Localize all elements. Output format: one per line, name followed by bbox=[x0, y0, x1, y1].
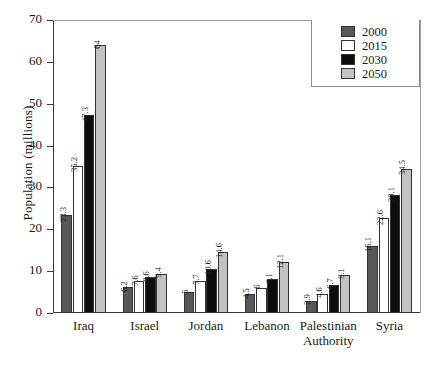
y-axis-tick-label: 60 bbox=[29, 53, 42, 69]
bar: 2.9 bbox=[306, 301, 317, 313]
y-axis-tick-label: 30 bbox=[29, 178, 42, 194]
bar-value-label: 4.6 bbox=[314, 287, 323, 298]
legend-item: 2050 bbox=[341, 67, 419, 80]
bar: 6.2 bbox=[123, 287, 134, 313]
bar-value-label: 6.7 bbox=[325, 279, 334, 290]
bar: 12.1 bbox=[279, 262, 290, 313]
legend-color-swatch bbox=[341, 26, 355, 37]
bar: 9.1 bbox=[340, 275, 351, 313]
legend-item-label: 2015 bbox=[362, 40, 387, 52]
y-axis-title: Population (millions) bbox=[20, 53, 36, 273]
legend-color-swatch bbox=[341, 54, 355, 65]
legend-color-swatch bbox=[341, 68, 355, 79]
bar: 4.6 bbox=[317, 294, 328, 313]
plot-right-border bbox=[420, 20, 421, 313]
bar-value-label: 12.1 bbox=[276, 254, 285, 269]
bar: 14.6 bbox=[218, 252, 229, 313]
bar-value-label: 14.6 bbox=[214, 243, 223, 258]
y-axis-tick-label: 50 bbox=[29, 95, 42, 111]
bar-value-label: 4.5 bbox=[242, 288, 251, 299]
y-axis-tick-label: 40 bbox=[29, 137, 42, 153]
bar: 5 bbox=[184, 292, 195, 313]
chart-legend: 2000201520302050 bbox=[311, 20, 420, 87]
bar-group: 57.710.614.6 bbox=[184, 20, 228, 313]
bar: 22.6 bbox=[379, 218, 390, 313]
legend-item: 2000 bbox=[341, 25, 419, 38]
bar-value-label: 23.3 bbox=[58, 207, 67, 222]
bar-value-label: 10.6 bbox=[203, 260, 212, 275]
bar-value-label: 35.2 bbox=[69, 157, 78, 172]
bar-chart-figure: Population (millions) 010203040506070 23… bbox=[0, 0, 433, 367]
bar: 7.7 bbox=[195, 281, 206, 313]
bar: 35.2 bbox=[73, 166, 84, 313]
bar-group: 4.568.112.1 bbox=[245, 20, 289, 313]
y-axis-tick-mark bbox=[47, 313, 53, 314]
bar-value-label: 9.4 bbox=[153, 267, 162, 278]
bar: 34.5 bbox=[401, 169, 412, 313]
bar: 7.6 bbox=[134, 281, 145, 313]
bar-value-label: 2.9 bbox=[303, 295, 312, 306]
bar-group: 23.335.247.364 bbox=[61, 20, 105, 313]
bar: 16.1 bbox=[367, 246, 378, 313]
bar-value-label: 8.6 bbox=[142, 271, 151, 282]
bar: 4.5 bbox=[245, 294, 256, 313]
legend-item-label: 2050 bbox=[362, 68, 387, 80]
bar: 6 bbox=[256, 288, 267, 313]
y-axis-tick-label: 10 bbox=[29, 262, 42, 278]
bar: 8.1 bbox=[267, 279, 278, 313]
bar-value-label: 16.1 bbox=[364, 237, 373, 252]
bar: 23.3 bbox=[61, 215, 72, 313]
bar: 9.4 bbox=[156, 274, 167, 313]
y-axis-tick-label: 70 bbox=[29, 11, 42, 27]
legend-color-swatch bbox=[341, 40, 355, 51]
y-axis-tick-label: 20 bbox=[29, 220, 42, 236]
bar-value-label: 6.2 bbox=[119, 281, 128, 292]
bar: 6.7 bbox=[329, 285, 340, 313]
bar: 47.3 bbox=[84, 115, 95, 313]
bar-value-label: 64 bbox=[92, 40, 101, 49]
bar-value-label: 22.6 bbox=[375, 210, 384, 225]
legend-item: 2030 bbox=[341, 53, 419, 66]
bar-value-label: 5 bbox=[180, 289, 189, 293]
bar-value-label: 8.1 bbox=[264, 273, 273, 284]
bar: 64 bbox=[95, 45, 106, 313]
bar-value-label: 28.1 bbox=[387, 187, 396, 202]
bar-value-label: 47.3 bbox=[81, 107, 90, 122]
bar-value-label: 9.1 bbox=[337, 269, 346, 280]
bar-value-label: 6 bbox=[253, 285, 262, 289]
legend-item-label: 2030 bbox=[362, 54, 387, 66]
bar-group: 6.27.68.69.4 bbox=[123, 20, 167, 313]
legend-item-label: 2000 bbox=[362, 26, 387, 38]
bar-value-label: 7.7 bbox=[192, 274, 201, 285]
bar: 8.6 bbox=[145, 277, 156, 313]
bar-value-label: 34.5 bbox=[398, 160, 407, 175]
x-axis-label: Syria bbox=[341, 318, 433, 333]
legend-item: 2015 bbox=[341, 39, 419, 52]
bar: 10.6 bbox=[206, 269, 217, 313]
bar: 28.1 bbox=[390, 195, 401, 313]
bar-value-label: 7.6 bbox=[131, 275, 140, 286]
